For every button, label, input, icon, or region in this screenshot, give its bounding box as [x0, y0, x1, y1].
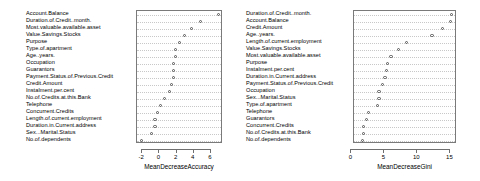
variable-label: Type.of.apartment [26, 45, 72, 51]
data-point [361, 139, 364, 142]
axis-tick-label: 5 [382, 154, 385, 161]
data-point [376, 104, 379, 107]
x-axis-title: MeanDecreaseGini [377, 163, 432, 171]
data-point [163, 97, 166, 100]
gridline [137, 36, 221, 37]
gridline [354, 92, 455, 93]
gridline [354, 99, 455, 100]
gridline [354, 78, 455, 79]
gridline [137, 64, 221, 65]
gridline [137, 106, 221, 107]
variable-importance-figure: Account.BalanceDuration.of.Credit..month… [0, 0, 480, 181]
variable-label: Most.valuable.available.asset [26, 24, 101, 30]
variable-label: Telephone [246, 108, 272, 114]
variable-label: Most.valuable.available.asset [246, 52, 321, 58]
variable-label: Purpose [26, 38, 47, 44]
gridline [137, 85, 221, 86]
axis-tick-label: 0 [157, 154, 160, 161]
gridline [137, 71, 221, 72]
axis-line [350, 149, 449, 150]
gridline [137, 29, 221, 30]
panel-mean-decrease-gini: Duration.of.Credit..month.Account.Balanc… [240, 0, 480, 181]
axis-tick-label: 4 [191, 154, 194, 161]
variable-label: Age..years. [246, 31, 275, 37]
axis-tick [416, 149, 417, 153]
variable-label: Purpose [246, 59, 267, 65]
axis-tick [176, 149, 177, 153]
variable-label: Value.Savings.Stocks [26, 31, 81, 37]
variable-label: Age..years. [26, 52, 55, 58]
variable-label: Concurrent.Credits [246, 122, 294, 128]
plot-area-accuracy [136, 10, 222, 143]
variable-label: No.of.Credits.at.this.Bank [246, 129, 311, 135]
variable-label: Telephone [26, 101, 52, 107]
variable-label: No.of.Credits.at.this.Bank [26, 94, 91, 100]
panel-mean-decrease-accuracy: Account.BalanceDuration.of.Credit..month… [0, 0, 240, 181]
axis-tick-label: 10 [413, 154, 420, 161]
data-point [362, 132, 365, 135]
variable-label: Account.Balance [26, 10, 69, 16]
gridline [137, 50, 221, 51]
data-point [150, 132, 153, 135]
axis-tick [350, 149, 351, 153]
variable-label: Account.Balance [246, 17, 289, 23]
data-point [170, 83, 173, 86]
variable-label: Duration.in.Current.address [26, 122, 96, 128]
data-point [183, 34, 186, 37]
data-point [441, 27, 444, 30]
data-point [397, 48, 400, 51]
axis-tick [158, 149, 159, 153]
variable-label: Length.of.current.employment [26, 115, 102, 121]
plot-area-gini [353, 10, 456, 143]
variable-label: Guarantors [26, 66, 54, 72]
gridline [354, 127, 455, 128]
data-point [381, 83, 384, 86]
data-point [367, 111, 370, 114]
gridline [137, 15, 221, 16]
data-point [174, 55, 177, 58]
data-point [156, 111, 159, 114]
data-point [389, 55, 392, 58]
gridline [354, 36, 455, 37]
data-point [153, 118, 156, 121]
gridline [354, 57, 455, 58]
gridline [354, 141, 455, 142]
data-point [365, 118, 368, 121]
gridline [354, 106, 455, 107]
variable-label: Concurrent.Credits [26, 108, 74, 114]
variable-label: Duration.of.Credit..month. [26, 17, 91, 23]
data-point [217, 13, 220, 16]
axis-tick [449, 149, 450, 153]
variable-label: Value.Savings.Stocks [246, 45, 301, 51]
gridline [354, 85, 455, 86]
gridline [137, 99, 221, 100]
data-point [178, 41, 181, 44]
axis-tick [141, 149, 142, 153]
axis-tick-label: 6 [208, 154, 211, 161]
data-point [140, 139, 143, 142]
gridline [137, 78, 221, 79]
variable-label: Credit.Amount [26, 80, 62, 86]
gridline [354, 120, 455, 121]
variable-label: Guarantors [246, 115, 274, 121]
data-point [172, 76, 175, 79]
axis-tick-label: 0 [349, 154, 352, 161]
data-point [362, 125, 365, 128]
variable-label: No.of.dependents [26, 136, 71, 142]
data-point [450, 13, 453, 16]
variable-label: Instalment.per.cent [26, 87, 74, 93]
variable-label: Sex...Marital.Status [246, 94, 296, 100]
variable-label: Occupation [26, 59, 55, 65]
gridline [354, 134, 455, 135]
gridline [137, 120, 221, 121]
variable-label: Instalment.per.cent [246, 66, 294, 72]
axis-tick-label: 2 [174, 154, 177, 161]
gridline [354, 71, 455, 72]
data-point [377, 97, 380, 100]
variable-label: Length.of.current.employment [246, 38, 322, 44]
variable-label: Duration.in.Current.address [246, 73, 316, 79]
gridline [354, 50, 455, 51]
gridline [137, 22, 221, 23]
data-point [159, 104, 162, 107]
variable-label: Credit.Amount [246, 24, 282, 30]
